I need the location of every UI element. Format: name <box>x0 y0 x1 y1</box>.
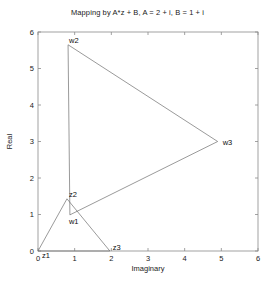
point-labels: z1z2z3w1w2w3 <box>42 36 232 260</box>
plot-area: 01234560123456 z1z2z3w1w2w3 ImaginaryRea… <box>0 0 275 287</box>
y-tick-label: 5 <box>30 64 34 73</box>
y-tick-label: 4 <box>30 101 34 110</box>
figure-canvas: Mapping by A*z + B, A = 2 + i, B = 1 + i… <box>0 0 275 287</box>
y-tick-label: 6 <box>30 28 34 37</box>
point-label-z1: z1 <box>42 251 50 260</box>
x-tick-label: 4 <box>183 254 187 263</box>
y-tick-label: 2 <box>30 174 34 183</box>
point-label-w2: w2 <box>68 36 79 45</box>
x-tick-label: 6 <box>256 254 260 263</box>
x-tick-label: 1 <box>73 254 77 263</box>
point-label-z3: z3 <box>113 243 121 252</box>
x-tick-label: 2 <box>109 254 113 263</box>
y-tick-label: 0 <box>30 247 34 256</box>
point-label-w3: w3 <box>222 138 233 147</box>
x-axis-title: Imaginary <box>132 264 165 273</box>
data-series <box>38 45 218 251</box>
y-tick-label: 3 <box>30 137 34 146</box>
series-path-w-triangle <box>68 45 218 215</box>
point-label-w1: w1 <box>68 217 79 226</box>
x-tick-label: 0 <box>36 254 40 263</box>
y-axis-title: Real <box>5 133 14 149</box>
point-label-z2: z2 <box>69 190 77 199</box>
y-tick-label: 1 <box>30 210 34 219</box>
x-tick-label: 3 <box>146 254 150 263</box>
x-tick-label: 5 <box>219 254 223 263</box>
